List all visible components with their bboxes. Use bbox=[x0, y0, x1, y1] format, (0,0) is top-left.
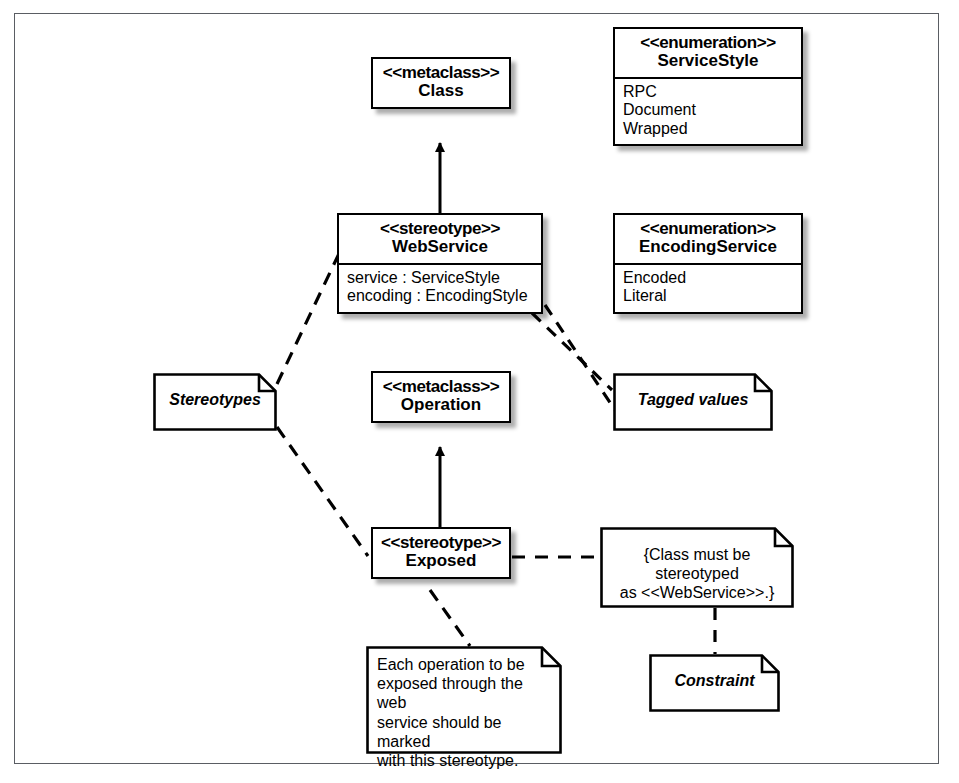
service-style-stereotype: <<enumeration>> bbox=[621, 34, 795, 52]
note-tagged-values-text: Tagged values bbox=[613, 373, 773, 416]
note-line: service should be marked bbox=[377, 713, 551, 751]
enum-literal: RPC bbox=[623, 83, 793, 102]
class-metaclass-stereotype: <<metaclass>> bbox=[379, 64, 503, 82]
attribute-row: encoding : EncodingStyle bbox=[347, 287, 533, 306]
exposed-stereotype-tag: <<stereotype>> bbox=[379, 534, 503, 552]
note-line: with this stereotype. bbox=[377, 751, 551, 770]
note-constraint-body-text: {Class must be stereotyped as <<WebServi… bbox=[600, 527, 794, 610]
node-service-style-enum[interactable]: <<enumeration>> ServiceStyle RPC Documen… bbox=[613, 27, 803, 146]
note-constraint-body[interactable]: {Class must be stereotyped as <<WebServi… bbox=[600, 527, 794, 608]
enum-literal: Wrapped bbox=[623, 120, 793, 139]
service-style-name: ServiceStyle bbox=[621, 52, 795, 70]
exposed-header: <<stereotype>> Exposed bbox=[373, 529, 509, 577]
web-service-stereotype-tag: <<stereotype>> bbox=[345, 220, 535, 238]
uml-diagram-figure: <<metaclass>> Class <<enumeration>> Serv… bbox=[0, 0, 959, 783]
class-metaclass-name: Class bbox=[379, 82, 503, 100]
encoding-service-stereotype: <<enumeration>> bbox=[621, 220, 795, 238]
node-operation-metaclass[interactable]: <<metaclass>> Operation bbox=[371, 371, 511, 423]
web-service-name: WebService bbox=[345, 238, 535, 256]
service-style-literals: RPC Document Wrapped bbox=[615, 77, 801, 145]
note-constraint-label-text: Constraint bbox=[649, 654, 780, 697]
note-line: {Class must be stereotyped bbox=[611, 545, 783, 583]
note-line: as <<WebService>>.} bbox=[611, 583, 783, 602]
node-encoding-service-enum[interactable]: <<enumeration>> EncodingService Encoded … bbox=[613, 213, 803, 314]
note-line: Each operation to be bbox=[377, 655, 551, 674]
encoding-service-name: EncodingService bbox=[621, 238, 795, 256]
web-service-header: <<stereotype>> WebService bbox=[339, 215, 541, 263]
note-line: exposed through the web bbox=[377, 674, 551, 712]
operation-metaclass-stereotype: <<metaclass>> bbox=[379, 378, 503, 396]
web-service-attributes: service : ServiceStyle encoding : Encodi… bbox=[339, 263, 541, 312]
note-exposed-description[interactable]: Each operation to be exposed through the… bbox=[366, 646, 562, 754]
enum-literal: Literal bbox=[623, 287, 793, 306]
node-class-metaclass[interactable]: <<metaclass>> Class bbox=[371, 57, 511, 109]
encoding-service-literals: Encoded Literal bbox=[615, 263, 801, 312]
service-style-header: <<enumeration>> ServiceStyle bbox=[615, 29, 801, 77]
note-constraint-label[interactable]: Constraint bbox=[649, 654, 780, 712]
note-stereotypes-text: Stereotypes bbox=[153, 373, 277, 416]
node-exposed-stereotype[interactable]: <<stereotype>> Exposed bbox=[371, 527, 511, 579]
enum-literal: Document bbox=[623, 101, 793, 120]
encoding-service-header: <<enumeration>> EncodingService bbox=[615, 215, 801, 263]
node-web-service-stereotype[interactable]: <<stereotype>> WebService service : Serv… bbox=[337, 213, 543, 314]
class-metaclass-header: <<metaclass>> Class bbox=[373, 59, 509, 107]
operation-metaclass-header: <<metaclass>> Operation bbox=[373, 373, 509, 421]
note-tagged-values-label[interactable]: Tagged values bbox=[613, 373, 773, 431]
exposed-name: Exposed bbox=[379, 552, 503, 570]
enum-literal: Encoded bbox=[623, 269, 793, 288]
note-stereotypes-label[interactable]: Stereotypes bbox=[153, 373, 277, 431]
operation-metaclass-name: Operation bbox=[379, 396, 503, 414]
attribute-row: service : ServiceStyle bbox=[347, 269, 533, 288]
note-exposed-description-text: Each operation to be exposed through the… bbox=[366, 646, 562, 777]
